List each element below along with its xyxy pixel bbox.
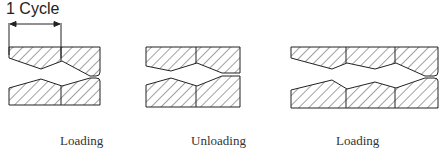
caption-loading-2: Loading	[336, 133, 379, 149]
upper-specimen	[146, 47, 240, 73]
lower-specimen	[9, 78, 100, 105]
panel-unloading	[146, 47, 240, 107]
lower-specimen	[146, 76, 240, 107]
caption-loading-1: Loading	[60, 133, 103, 149]
panel-loading-1	[9, 47, 100, 105]
cycle-label: 1 Cycle	[6, 0, 59, 18]
upper-specimen	[291, 47, 438, 76]
upper-specimen	[9, 47, 100, 76]
lower-specimen	[291, 78, 438, 108]
caption-unloading: Unloading	[191, 133, 246, 149]
panel-loading-2	[291, 47, 438, 108]
